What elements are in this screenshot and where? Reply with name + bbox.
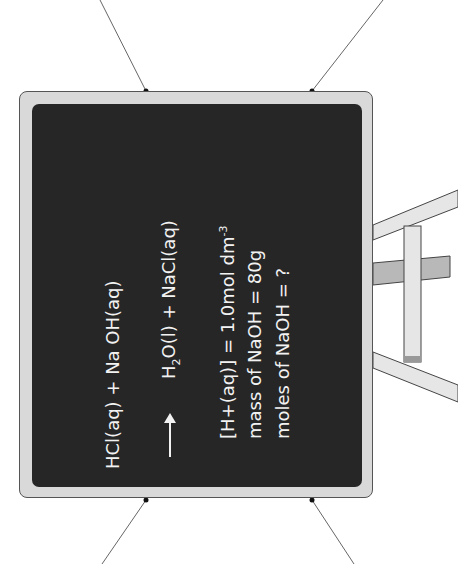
equation-reactants: HCl(aq) + Na OH(aq)	[104, 280, 122, 469]
hanging-string-left-bottom	[102, 500, 146, 564]
given-concentration: [H+(aq)] = 1.0mol dm-3	[218, 225, 237, 439]
board-content: HCl(aq) + Na OH(aq) H2O(l) + NaCl(aq) [H…	[32, 104, 362, 487]
reaction-arrow-icon	[169, 415, 171, 457]
question-moles: moles of NaOH = ?	[274, 268, 292, 439]
given-mass: mass of NaOH = 80g	[246, 250, 264, 439]
equation-products: H2O(l) + NaCl(aq)	[160, 220, 182, 379]
hanging-string-right-bottom	[312, 500, 354, 564]
hanging-string-left-top	[100, 0, 146, 91]
hanging-string-right-top	[312, 0, 383, 91]
chalkboard: HCl(aq) + Na OH(aq) H2O(l) + NaCl(aq) [H…	[32, 104, 362, 487]
